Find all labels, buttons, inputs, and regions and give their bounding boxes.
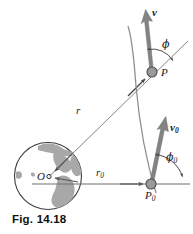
label-angle-phi0: ϕ0 — [166, 152, 177, 165]
figure-14-18: v v0 P P0 O r r0 ϕ ϕ0 Fig. 14.18 — [0, 0, 193, 234]
label-point-p0: P0 — [145, 190, 155, 203]
label-angle-phi0-base: ϕ — [166, 151, 174, 164]
label-radius-r: r — [76, 105, 80, 116]
orbital-diagram-svg — [0, 0, 193, 234]
label-point-p: P — [161, 67, 168, 78]
point-marker-p — [147, 67, 157, 77]
label-point-p0-base: P — [145, 189, 152, 201]
continent-shape-tail — [64, 203, 74, 211]
label-velocity-v0-sub: 0 — [175, 126, 179, 135]
point-marker-p0 — [146, 179, 156, 189]
label-angle-phi0-sub: 0 — [174, 156, 178, 165]
label-radius-r0: r0 — [96, 167, 104, 180]
label-center-o: O — [37, 171, 45, 182]
label-radius-r0-sub: 0 — [100, 171, 104, 180]
trajectory-curve — [128, 26, 156, 193]
label-velocity-v: v — [152, 7, 157, 18]
label-point-p0-sub: 0 — [152, 194, 156, 203]
figure-caption: Fig. 14.18 — [12, 213, 66, 225]
label-velocity-v0: v0 — [170, 122, 179, 135]
label-angle-phi: ϕ — [162, 39, 170, 50]
velocity-vector-v — [141, 10, 153, 74]
